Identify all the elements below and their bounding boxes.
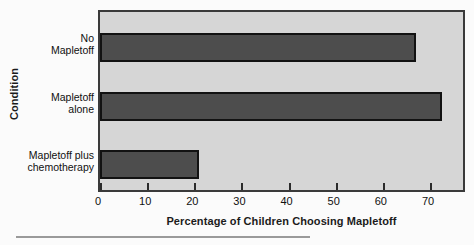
category-label-mapletoff-alone: Mapletoff alone: [0, 91, 94, 115]
category-label-line: alone: [0, 103, 94, 115]
bottom-rule: [16, 236, 310, 238]
category-label-line: Mapletoff plus: [0, 149, 94, 161]
x-tick-label-20: 20: [172, 195, 212, 207]
x-tick-label-40: 40: [267, 195, 307, 207]
x-tick-0: [100, 183, 102, 190]
bar-no-mapletoff: [100, 33, 416, 62]
category-label-line: Mapletoff: [0, 91, 94, 103]
x-tick-label-30: 30: [219, 195, 259, 207]
category-label-line: Mapletoff: [0, 44, 94, 56]
x-tick-label-70: 70: [408, 195, 448, 207]
x-tick-label-10: 10: [125, 195, 165, 207]
x-tick-60: [383, 183, 385, 190]
category-label-line: chemotherapy: [0, 161, 94, 173]
x-tick-50: [336, 183, 338, 190]
x-tick-30: [241, 183, 243, 190]
x-tick-label-0: 0: [78, 195, 118, 207]
x-tick-label-50: 50: [314, 195, 354, 207]
category-label-no-mapletoff: No Mapletoff: [0, 32, 94, 56]
x-tick-label-60: 60: [361, 195, 401, 207]
x-axis-title: Percentage of Children Choosing Mapletof…: [98, 215, 465, 227]
bar-mapletoff-alone: [100, 92, 442, 121]
x-tick-20: [194, 183, 196, 190]
category-label-line: No: [0, 32, 94, 44]
bar-chart-figure: Condition No Mapletoff Mapletoff alone M…: [0, 0, 474, 245]
x-tick-10: [147, 183, 149, 190]
bar-mapletoff-plus-chemotherapy: [100, 150, 199, 179]
x-tick-40: [289, 183, 291, 190]
plot-area: [98, 10, 465, 192]
x-tick-70: [430, 183, 432, 190]
category-label-mapletoff-plus-chemotherapy: Mapletoff plus chemotherapy: [0, 149, 94, 173]
